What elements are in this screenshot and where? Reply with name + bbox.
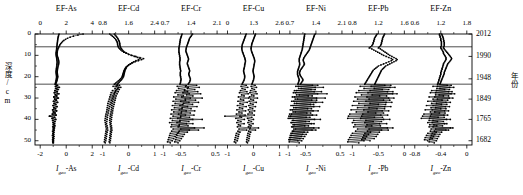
series-marker: [247, 142, 249, 144]
series-marker: [104, 137, 106, 139]
series-marker: [352, 132, 354, 134]
series-marker: [54, 83, 56, 85]
series-marker: [170, 126, 172, 128]
series-marker: [448, 91, 450, 93]
series-marker: [247, 135, 249, 137]
series-marker: [391, 56, 393, 58]
series-marker: [56, 84, 58, 86]
series-marker: [110, 113, 112, 115]
series-marker: [357, 128, 359, 130]
series-marker: [113, 94, 115, 96]
series-marker: [302, 138, 304, 140]
series-marker: [430, 92, 432, 94]
series-marker: [189, 112, 191, 114]
series-marker: [436, 140, 438, 142]
series-marker: [305, 121, 307, 123]
series-marker: [326, 93, 328, 95]
series-marker: [375, 67, 377, 69]
year-tick-label: 2012: [476, 29, 491, 38]
series-marker: [109, 124, 111, 126]
series-marker: [184, 133, 186, 135]
series-marker: [349, 113, 351, 115]
series-marker: [194, 89, 196, 91]
series-marker: [307, 108, 309, 110]
series-marker: [368, 98, 370, 100]
series-marker: [389, 63, 391, 65]
series-marker: [111, 103, 113, 105]
bottom-axis-tick-label: -0.5: [364, 150, 392, 158]
series-marker: [353, 120, 355, 122]
series-marker: [443, 95, 445, 97]
series-marker: [432, 85, 434, 87]
series-marker: [307, 95, 309, 97]
series-marker: [65, 38, 67, 40]
series-marker: [379, 52, 381, 54]
series-marker: [114, 101, 116, 103]
series-marker: [248, 124, 250, 126]
panel-bottom-caption-zn: Igeo-Zn: [410, 164, 472, 175]
series-marker: [354, 124, 356, 126]
igeo-element: -As: [66, 164, 77, 173]
series-marker: [347, 117, 349, 119]
series-marker: [237, 138, 239, 140]
series-marker: [352, 122, 354, 124]
series-marker: [253, 114, 255, 116]
series-marker: [381, 121, 383, 123]
series-marker: [377, 133, 379, 135]
series-marker: [348, 115, 350, 117]
series-marker: [312, 84, 314, 86]
series-marker: [196, 84, 198, 86]
series-marker: [386, 95, 388, 97]
series-marker: [177, 142, 179, 144]
series-marker: [49, 115, 51, 117]
series-marker: [439, 112, 441, 114]
series-marker: [251, 112, 253, 114]
series-marker: [107, 103, 109, 105]
series-marker: [52, 117, 54, 119]
series-marker: [301, 136, 303, 138]
series-marker: [317, 84, 319, 86]
series-marker: [298, 142, 300, 144]
series-marker: [250, 85, 252, 87]
series-marker: [448, 129, 450, 131]
depth-tick-label: 10: [0, 50, 31, 58]
series-marker: [379, 131, 381, 133]
series-marker: [435, 131, 437, 133]
series-marker: [173, 111, 175, 113]
series-marker: [441, 99, 443, 101]
series-marker: [436, 88, 438, 90]
series-marker: [174, 107, 176, 109]
series-marker: [251, 83, 253, 85]
series-marker: [365, 120, 367, 122]
series-marker: [368, 107, 370, 109]
series-marker: [368, 128, 370, 130]
series-marker: [431, 90, 433, 92]
series-marker: [201, 119, 203, 121]
series-marker: [451, 91, 453, 93]
series-marker: [105, 138, 107, 140]
series-marker: [310, 112, 312, 114]
left-axis-title: 深度/cm: [2, 62, 13, 105]
series-marker: [252, 104, 254, 106]
series-marker: [288, 115, 290, 117]
series-marker: [435, 94, 437, 96]
series-marker: [428, 141, 430, 143]
series-marker: [291, 120, 293, 122]
series-marker: [169, 122, 171, 124]
series-marker: [105, 113, 107, 115]
series-marker: [239, 103, 241, 105]
series-marker: [171, 124, 173, 126]
series-marker: [252, 108, 254, 110]
series-marker: [246, 139, 248, 141]
series-marker: [237, 130, 239, 132]
series-marker: [289, 137, 291, 139]
top-axis-tick-label: 0.6: [401, 19, 429, 27]
series-marker: [236, 122, 238, 124]
series-marker: [171, 105, 173, 107]
series-marker: [69, 36, 71, 38]
series-marker: [77, 34, 79, 36]
series-marker: [293, 92, 295, 94]
year-tick-label: 1948: [476, 73, 491, 82]
series-marker: [57, 97, 59, 99]
series-marker: [237, 126, 239, 128]
